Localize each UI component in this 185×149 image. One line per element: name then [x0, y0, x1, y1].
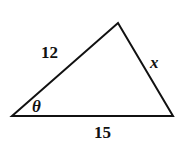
side-label-15: 15 — [94, 123, 111, 142]
side-label-12: 12 — [41, 43, 58, 62]
angle-label-theta: θ — [32, 97, 41, 116]
triangle-diagram: 12 x θ 15 — [0, 0, 185, 149]
side-label-x: x — [149, 53, 159, 72]
